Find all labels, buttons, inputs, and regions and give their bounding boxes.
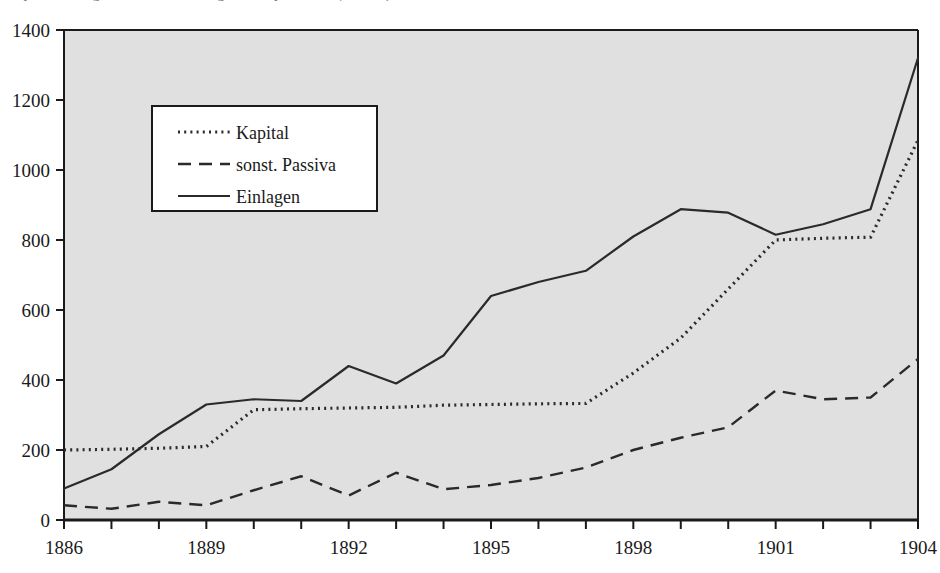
y-tick-label: 0 <box>41 510 51 531</box>
y-tick-label: 800 <box>22 230 51 251</box>
legend-label: sonst. Passiva <box>236 155 336 175</box>
y-axis-ticks: 0200400600800100012001400 <box>12 20 65 531</box>
x-tick-label: 1898 <box>614 537 652 558</box>
x-axis-ticks: 1886188918921895189819011904 <box>45 520 938 558</box>
y-tick-label: 200 <box>22 440 51 461</box>
y-tick-label: 600 <box>22 300 51 321</box>
line-chart: 0200400600800100012001400 18861889189218… <box>0 0 940 573</box>
plot-background <box>64 30 918 520</box>
chart-legend: Kapitalsonst. PassivaEinlagen <box>152 106 377 211</box>
x-tick-label: 1904 <box>899 537 938 558</box>
legend-label: Kapital <box>236 123 289 143</box>
y-tick-label: 400 <box>22 370 51 391</box>
x-tick-label: 1886 <box>45 537 83 558</box>
x-tick-label: 1895 <box>472 537 510 558</box>
x-tick-label: 1892 <box>330 537 368 558</box>
x-tick-label: 1889 <box>187 537 225 558</box>
x-tick-label: 1901 <box>757 537 795 558</box>
y-tick-label: 1000 <box>12 160 50 181</box>
figure-container: Kapital, sonstige Passiva und Einlagen d… <box>0 0 940 573</box>
legend-label: Einlagen <box>236 187 300 207</box>
y-tick-label: 1400 <box>12 20 50 41</box>
y-tick-label: 1200 <box>12 90 50 111</box>
